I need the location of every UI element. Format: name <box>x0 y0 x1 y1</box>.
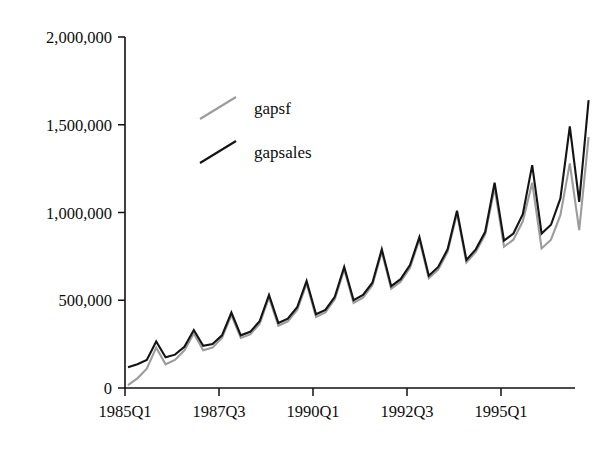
line-chart: 0500,0001,000,0001,500,0002,000,000 1985… <box>0 0 610 452</box>
legend-label-gapsf: gapsf <box>254 99 291 118</box>
x-tick-label: 1985Q1 <box>98 402 151 421</box>
x-tick-label: 1987Q3 <box>192 402 245 421</box>
legend-swatch-gapsf <box>200 97 236 119</box>
x-tick-label: 1995Q1 <box>474 402 527 421</box>
y-tick-label: 1,000,000 <box>46 204 112 223</box>
series-line-gapsales <box>128 100 589 367</box>
data-series-group <box>128 100 589 385</box>
x-axis-tick-labels: 1985Q11987Q31990Q11992Q31995Q1 <box>98 402 527 421</box>
legend-swatch-gapsales <box>200 141 236 163</box>
x-tick-label: 1990Q1 <box>286 402 339 421</box>
chart-legend: gapsfgapsales <box>200 97 312 163</box>
y-axis <box>118 37 125 388</box>
y-tick-label: 500,000 <box>58 291 112 310</box>
y-tick-label: 2,000,000 <box>46 28 112 47</box>
y-tick-label: 0 <box>104 379 112 398</box>
legend-label-gapsales: gapsales <box>254 143 312 162</box>
y-tick-label: 1,500,000 <box>46 116 112 135</box>
x-axis <box>125 388 575 396</box>
chart-container: 0500,0001,000,0001,500,0002,000,000 1985… <box>0 0 610 452</box>
y-axis-tick-labels: 0500,0001,000,0001,500,0002,000,000 <box>46 28 112 398</box>
series-line-gapsf <box>128 137 589 385</box>
x-tick-label: 1992Q3 <box>380 402 433 421</box>
